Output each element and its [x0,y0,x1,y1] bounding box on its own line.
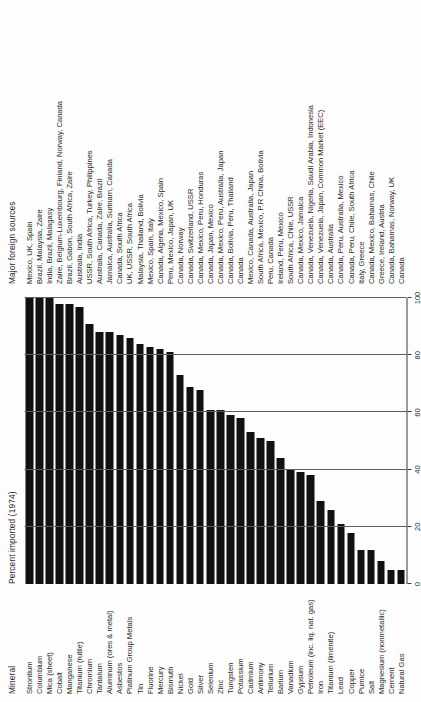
mineral-name: Vanadium [285,590,295,694]
mineral-name: Lead [335,590,345,694]
bar [276,458,284,584]
foreign-source: Canada, Switzerland, USSR [185,2,195,284]
bar-row [346,298,356,584]
mineral-name: Manganese [64,590,74,694]
bar [337,524,345,584]
bar [156,349,164,584]
bar-row [305,298,315,584]
bar [256,438,264,584]
foreign-source: Jamaica, Australia, Surinam, Canada [104,2,114,284]
foreign-source: USSR, South Africa, Turkey, Philippines [84,2,94,284]
bar [347,533,355,584]
mineral-name: Tellurium [265,590,275,694]
foreign-source: Canada, Venezuela, Nigeria, Saudi Arabia… [305,2,315,284]
bar [116,335,124,584]
mineral-name: Barium [275,590,285,694]
bar-row [34,298,44,584]
gridline [24,526,406,527]
foreign-source: Australia, Canada, Zaire, Brazil [94,2,104,284]
bar [397,570,405,584]
axis-tick-label: 40 [412,458,421,482]
foreign-source: Canada [396,2,406,284]
gridline [24,354,406,355]
axis-tick-label: 20 [412,515,421,539]
axis-tick-label: 100 [412,286,421,310]
foreign-source: Canada, Peru, Australia, Mexico [335,2,345,284]
bar [85,324,93,584]
foreign-source: Brazil, Gabon, South Africa, Zaire [64,2,74,284]
bar [35,298,43,584]
bar-row [94,298,104,584]
foreign-source: Canada, Bahamas, Norway, UK [386,2,396,284]
mineral-import-figure: Mineral Percent imported (1974) Major fo… [0,0,421,702]
bar [306,475,314,584]
bar [367,550,375,584]
axis-tick [407,469,411,470]
bar-row [245,298,255,584]
rotated-figure-wrapper: Mineral Percent imported (1974) Major fo… [0,0,421,702]
bar-row [356,298,366,584]
bar [146,347,154,584]
bar [75,307,83,584]
bar-row [74,298,84,584]
bar [176,375,184,584]
bar [136,344,144,584]
foreign-source: Brazil, Malaysia, Zaire [34,2,44,284]
bar [126,338,134,584]
axis-tick [407,354,411,355]
bar-row [235,298,245,584]
mineral-name: Cement [386,590,396,694]
mineral-name: Silver [195,590,205,694]
mineral-name: Tantalum [94,590,104,694]
bar [25,298,33,584]
mineral-name: Nickel [175,590,185,694]
bar-row [205,298,215,584]
foreign-source: South Africa, Chile, USSR [285,2,295,284]
foreign-source: Canada, Mexico, Jamaica [295,2,305,284]
bar [236,418,244,584]
foreign-source: Canada, Australia [325,2,335,284]
bar-row [255,298,265,584]
bar-row [114,298,124,584]
mineral-name: Gold [185,590,195,694]
mineral-name: Columbium [34,590,44,694]
column-header-sources: Major foreign sources [6,201,16,284]
foreign-source: Canada, Bolivia, Peru, Thailand [225,2,235,284]
mineral-name: Mica (sheet) [44,590,54,694]
mineral-name: Mercury [155,590,165,694]
bar [266,441,274,584]
bar-row [366,298,376,584]
bar-row [195,298,205,584]
bar-row [265,298,275,584]
axis-tick [407,297,411,298]
foreign-source: Ireland, Peru, Mexico [275,2,285,284]
bar [206,410,214,584]
foreign-source: Canada, Mexico, Bahamas, Chile [366,2,376,284]
bar-row [104,298,114,584]
foreign-source: Canada [235,2,245,284]
axis-tick-label: 0 [412,572,421,596]
foreign-source: Peru, Canada [265,2,275,284]
foreign-source: Canada, Algeria, Mexico, Spain [155,2,165,284]
bar-row [165,298,175,584]
foreign-source: Canada, Peru, Chile, South Africa [346,2,356,284]
mineral-name: Copper [346,590,356,694]
foreign-source: Greece, Ireland, Austria [376,2,386,284]
mineral-name: Iron [315,590,325,694]
mineral-name: Strontium [24,590,34,694]
bar-row [135,298,145,584]
mineral-name: Tungsten [225,590,235,694]
mineral-name: Pumice [356,590,366,694]
axis-tick [407,583,411,584]
bar-row [64,298,74,584]
bar [296,472,304,584]
mineral-name: Potassium [235,590,245,694]
bar [45,298,53,584]
foreign-source: Australia, India [74,2,84,284]
mineral-name: Platinum Group Metals [124,590,134,694]
mineral-name: Antimony [255,590,265,694]
bar [95,332,103,584]
foreign-source: Mexico, Canada, Australia, Japan [245,2,255,284]
mineral-name: Titanium (ilmenite) [325,590,335,694]
mineral-name: Natural Gas [396,590,406,694]
